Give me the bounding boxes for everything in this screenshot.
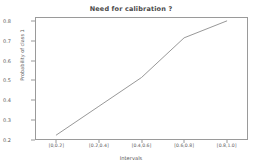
- calibration-line-series: [0, 0, 262, 164]
- x-tick-mark: [184, 140, 185, 143]
- y-tick-mark: [31, 40, 35, 41]
- y-tick-label: 0.2: [0, 137, 11, 143]
- x-tick-mark: [226, 140, 227, 143]
- x-axis-label: Intervals: [0, 155, 262, 161]
- series-polyline: [56, 21, 226, 135]
- y-tick-label: 0.8: [0, 18, 11, 24]
- x-tick-label: [0.2,0.4]: [89, 143, 109, 148]
- y-tick-label: 0.3: [0, 117, 11, 123]
- y-tick-mark: [31, 20, 35, 21]
- y-tick-mark: [31, 100, 35, 101]
- y-tick-mark: [31, 80, 35, 81]
- y-tick-label: 0.5: [0, 77, 11, 83]
- chart-figure: Need for calibration ? Probability of cl…: [0, 0, 262, 164]
- x-tick-label: [0.8,1.0]: [217, 143, 237, 148]
- y-tick-label: 0.4: [0, 97, 11, 103]
- y-tick-label: 0.7: [0, 38, 11, 44]
- x-tick-label: [0.4,0.6]: [132, 143, 152, 148]
- x-tick-mark: [141, 140, 142, 143]
- y-tick-mark: [31, 140, 35, 141]
- y-tick-mark: [31, 60, 35, 61]
- x-tick-label: [0,0.2]: [49, 143, 64, 148]
- x-tick-mark: [98, 140, 99, 143]
- y-tick-mark: [31, 120, 35, 121]
- x-tick-label: [0.6,0.8]: [174, 143, 194, 148]
- x-tick-mark: [56, 140, 57, 143]
- y-tick-label: 0.6: [0, 58, 11, 64]
